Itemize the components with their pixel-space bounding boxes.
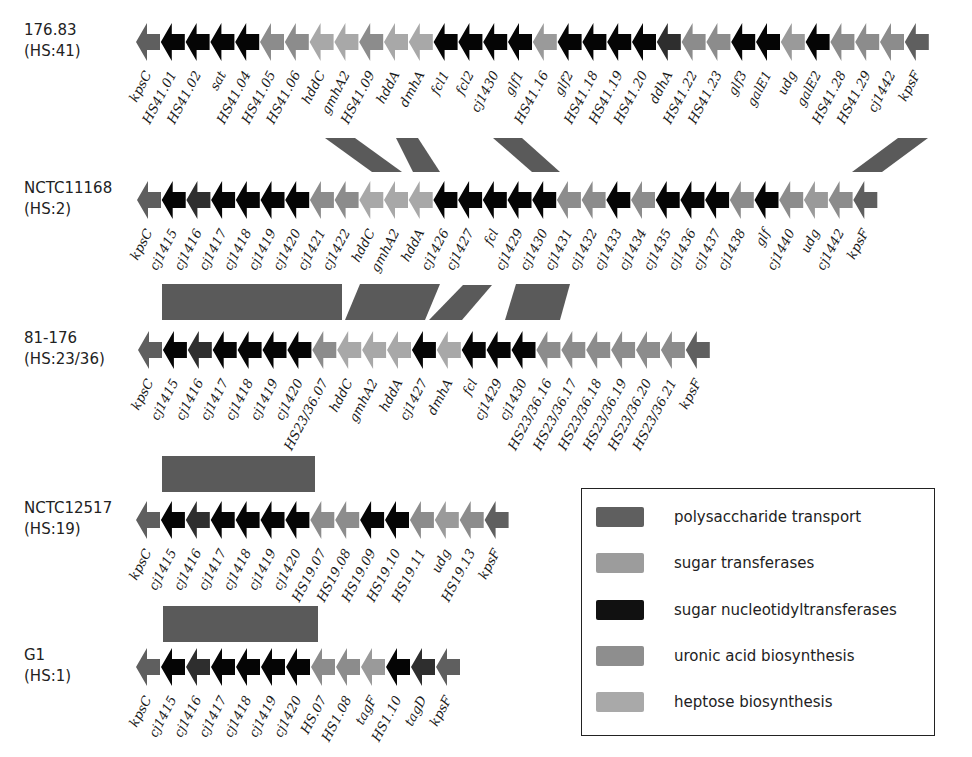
- homology-band: [162, 456, 315, 492]
- gene-arrow-icon: [310, 181, 334, 219]
- gene-arrow-icon: [512, 331, 536, 369]
- gene-label: galE1: [744, 68, 775, 109]
- gene-arrow-icon: [731, 23, 755, 61]
- gene-label: fcl2: [452, 68, 477, 98]
- gene-label: glf1: [501, 68, 526, 98]
- gene-arrow-icon: [312, 331, 336, 369]
- gene-arrow-icon: [829, 181, 853, 219]
- strain-label: NCTC12517(HS:19): [24, 498, 112, 540]
- gene-arrow-icon: [730, 181, 754, 219]
- gene-arrow-icon: [385, 501, 409, 539]
- gene-arrow-icon: [137, 181, 161, 219]
- gene-label: udg: [774, 68, 799, 97]
- gene-arrow-icon: [661, 331, 685, 369]
- legend-swatch-icon: [596, 553, 644, 573]
- strain-name: 81-176: [24, 328, 105, 349]
- gene-arrow-icon: [261, 181, 285, 219]
- gene-arrow-icon: [361, 648, 385, 686]
- legend-label: uronic acid biosynthesis: [674, 647, 855, 665]
- legend-swatch-icon: [596, 692, 644, 712]
- gene-arrow-icon: [508, 181, 532, 219]
- legend-label: sugar transferases: [674, 554, 814, 572]
- gene-label: kpsF: [676, 376, 705, 412]
- legend-label: polysaccharide transport: [674, 508, 861, 526]
- gene-arrow-icon: [387, 331, 411, 369]
- gene-arrow-icon: [487, 331, 511, 369]
- homology-band: [505, 284, 570, 320]
- homology-band: [493, 138, 560, 172]
- homology-band: [429, 285, 492, 320]
- gene-arrow-icon: [186, 501, 210, 539]
- gene-arrow-icon: [779, 181, 803, 219]
- gene-arrow-icon: [706, 23, 730, 61]
- gene-arrow-icon: [680, 181, 704, 219]
- legend-swatch-icon: [596, 646, 644, 666]
- gene-arrow-icon: [211, 648, 235, 686]
- gene-arrow-icon: [337, 331, 361, 369]
- gene-arrow-icon: [211, 181, 235, 219]
- gene-label: glf3: [725, 68, 750, 98]
- gene-arrow-icon: [263, 331, 287, 369]
- gene-arrow-icon: [161, 23, 185, 61]
- strain-label: NCTC11168(HS:2): [24, 178, 112, 220]
- gene-arrow-icon: [161, 648, 185, 686]
- legend: polysaccharide transport sugar transfera…: [581, 488, 935, 736]
- gene-arrow-icon: [636, 331, 660, 369]
- gene-arrow-icon: [136, 23, 160, 61]
- gene-arrow-icon: [136, 501, 160, 539]
- gene-arrow-icon: [311, 648, 335, 686]
- gene-arrow-icon: [682, 23, 706, 61]
- gene-arrow-icon: [755, 181, 779, 219]
- gene-arrow-icon: [437, 331, 461, 369]
- homology-band: [345, 284, 440, 320]
- gene-arrow-icon: [336, 648, 360, 686]
- homology-band: [325, 138, 402, 172]
- gene-arrow-icon: [362, 331, 386, 369]
- gene-arrow-icon: [211, 501, 235, 539]
- gene-arrow-icon: [656, 181, 680, 219]
- gene-arrow-icon: [334, 23, 358, 61]
- legend-item-sugar-nucleotidyltransferases: sugar nucleotidyltransferases: [596, 599, 897, 621]
- gene-arrow-icon: [686, 331, 710, 369]
- gene-arrow-icon: [138, 331, 162, 369]
- legend-swatch-icon: [596, 600, 644, 620]
- gene-arrow-icon: [335, 501, 359, 539]
- strain-serotype: (HS:23/36): [24, 349, 105, 370]
- gene-arrow-icon: [558, 23, 582, 61]
- legend-item-heptose-biosynthesis: heptose biosynthesis: [596, 691, 833, 713]
- strain-label: 176.83(HS:41): [24, 20, 81, 62]
- gene-arrow-icon: [386, 648, 410, 686]
- gene-arrow-icon: [460, 501, 484, 539]
- gene-arrow-icon: [384, 23, 408, 61]
- gene-arrow-icon: [804, 181, 828, 219]
- gene-label: kpsF: [475, 546, 504, 582]
- strain-name: 176.83: [24, 20, 81, 41]
- gene-arrow-icon: [213, 331, 237, 369]
- gene-arrow-icon: [632, 23, 656, 61]
- gene-arrow-icon: [606, 181, 630, 219]
- legend-label: heptose biosynthesis: [674, 693, 833, 711]
- gene-label: udg: [798, 226, 823, 255]
- gene-label: sat: [207, 68, 230, 93]
- gene-arrow-icon: [853, 181, 877, 219]
- gene-arrow-icon: [586, 331, 610, 369]
- gene-arrow-icon: [557, 181, 581, 219]
- gene-arrow-icon: [411, 648, 435, 686]
- gene-arrow-icon: [384, 181, 408, 219]
- strain-label: G1(HS:1): [24, 645, 71, 687]
- gene-arrow-icon: [607, 23, 631, 61]
- gene-arrow-icon: [236, 181, 260, 219]
- gene-arrow-icon: [806, 23, 830, 61]
- gene-arrow-icon: [261, 501, 285, 539]
- gene-label: udg: [428, 546, 453, 575]
- gene-arrow-icon: [359, 181, 383, 219]
- gene-arrow-icon: [236, 648, 260, 686]
- gene-arrow-icon: [188, 331, 212, 369]
- gene-arrow-icon: [238, 331, 262, 369]
- legend-item-polysaccharide-transport: polysaccharide transport: [596, 506, 861, 528]
- gene-row: kpsCHS41.01HS41.02satHS41.04HS41.05HS41.…: [126, 23, 929, 127]
- homology-band: [852, 138, 928, 172]
- gene-arrow-icon: [235, 23, 259, 61]
- gene-arrow-icon: [286, 648, 310, 686]
- gene-arrow-icon: [582, 181, 606, 219]
